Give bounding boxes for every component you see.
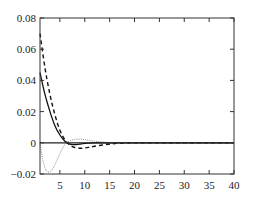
x-tick-label: 15 [104,179,116,191]
series-line-dashed [40,34,234,149]
x-axis: 510152025303540 [57,18,240,191]
x-tick-label: 10 [79,179,91,191]
x-tick-label: 30 [179,179,191,191]
y-tick-label: 0.04 [17,74,37,86]
y-axis: −0.0200.020.040.060.08 [11,12,234,180]
y-tick-label: 0.08 [17,12,37,24]
x-tick-label: 5 [57,179,63,191]
x-tick-label: 25 [154,179,166,191]
series-layer [40,34,234,172]
series-line-solid [40,73,234,145]
y-tick-label: 0.06 [17,43,37,55]
x-tick-label: 20 [129,179,141,191]
y-tick-label: 0 [31,137,37,149]
line-chart: 510152025303540 −0.0200.020.040.060.08 [0,0,255,201]
plot-frame [40,18,234,174]
x-tick-label: 40 [229,179,241,191]
y-tick-label: 0.02 [17,106,36,118]
y-tick-label: −0.02 [11,168,36,180]
x-tick-label: 35 [204,179,216,191]
